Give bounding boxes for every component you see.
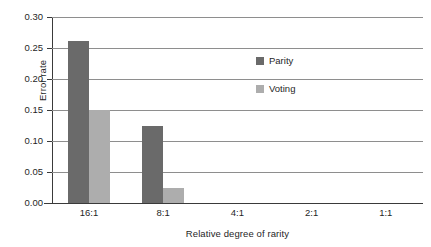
gridline	[52, 48, 423, 49]
x-axis-line	[44, 203, 423, 204]
y-axis-tick-label: 0.00	[1, 198, 43, 208]
legend-label: Parity	[269, 56, 293, 66]
legend-entry-voting: Voting	[256, 84, 295, 94]
bar-voting-8-1	[163, 188, 184, 204]
y-axis-tick-labels: 0.300.250.200.150.100.050.00	[0, 0, 48, 247]
y-axis-tick-label: 0.05	[1, 167, 43, 177]
x-axis-tick-label-16-1: 16:1	[59, 207, 119, 219]
x-axis-tick-label-8-1: 8:1	[133, 207, 193, 219]
y-axis-tick-label: 0.30	[1, 12, 43, 22]
bar-chart-figure: Error rate 0.300.250.200.150.100.050.00 …	[0, 0, 431, 247]
y-axis-tick-label: 0.10	[1, 136, 43, 146]
bar-parity-8-1	[142, 126, 163, 204]
x-axis-tick-label-4-1: 4:1	[207, 207, 267, 219]
legend-swatch-icon	[256, 85, 264, 93]
x-axis-tick-label-2-1: 2:1	[282, 207, 342, 219]
x-axis-title: Relative degree of rarity	[52, 228, 423, 239]
legend-swatch-icon	[256, 57, 264, 65]
x-axis-tick-label-1-1: 1:1	[356, 207, 416, 219]
bar-voting-16-1	[89, 110, 110, 203]
y-axis-tick-label: 0.20	[1, 74, 43, 84]
bar-parity-16-1	[68, 41, 89, 203]
legend-entry-parity: Parity	[256, 56, 293, 66]
gridline	[52, 79, 423, 80]
legend-label: Voting	[269, 84, 295, 94]
gridline	[52, 17, 423, 18]
plot-area	[52, 17, 423, 203]
y-axis-tick-label: 0.15	[1, 105, 43, 115]
y-axis-tick-label: 0.25	[1, 43, 43, 53]
